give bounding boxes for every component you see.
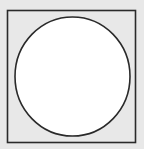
inscribed-circle [15,17,130,136]
diagram-canvas [0,0,144,149]
